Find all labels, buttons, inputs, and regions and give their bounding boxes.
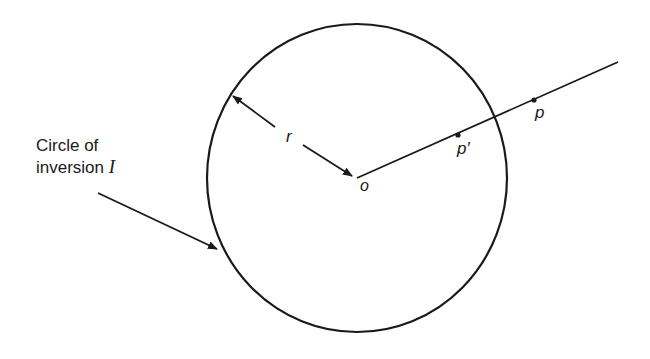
center-label: o xyxy=(360,177,369,195)
caption-line-2: inversion I xyxy=(36,156,115,178)
radius-arrow-outer xyxy=(233,96,275,127)
caption-symbol: I xyxy=(109,156,115,177)
point-p-label: p xyxy=(535,103,544,123)
caption-line-1: Circle of xyxy=(36,135,115,156)
diagram-canvas xyxy=(0,0,650,359)
point-p-prime-label: p′ xyxy=(457,139,470,159)
point-p-prime-dot xyxy=(455,132,460,137)
caption-pointer-arrow xyxy=(98,193,217,249)
ray-from-center xyxy=(357,62,618,178)
caption-line-2-text: inversion xyxy=(36,158,104,177)
inversion-diagram: Circle of inversion I r o p′ p xyxy=(0,0,650,359)
point-p-dot xyxy=(531,97,536,102)
circle-caption: Circle of inversion I xyxy=(36,135,115,178)
radius-arrow-inner xyxy=(303,145,352,176)
radius-label: r xyxy=(286,127,292,147)
